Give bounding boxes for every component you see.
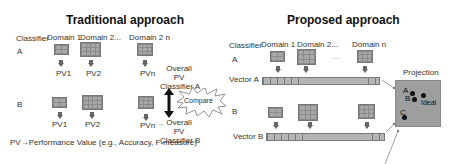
domain-1-header: Domain 1 [261,40,295,49]
classifier-b-label: B [232,107,237,116]
domain-2-data-grid [297,49,316,65]
footnote: PV→Performance Value (e.g., Accuracy, F-… [10,138,197,147]
down-arrow-icon [89,112,95,119]
domain-1-header: Domain 1 [47,33,81,42]
down-arrow-icon [273,122,279,129]
classifier-a-label: A [232,55,237,64]
vector-a-bar [262,77,380,85]
classifier-a-label: A [17,47,22,56]
domain-2-data-grid [82,95,103,110]
down-arrow-icon [275,66,281,73]
down-arrow-icon [362,66,368,73]
down-arrow-icon [303,66,309,73]
pv2-a: PV2 [86,69,101,78]
domain-n-data-grid [138,96,154,109]
classifier-header: Classifier [16,34,49,43]
vector-a-label: Vector A [229,75,259,84]
domain-1-data-grid [52,97,67,108]
point-a [410,91,415,96]
down-arrow-icon [307,122,313,129]
ellipsis: ...... [331,54,341,60]
vector-b-bar [266,133,385,141]
point-c [402,115,407,120]
down-arrow-icon [142,60,148,67]
domain-n-header: Domain n [352,40,386,49]
domain-n-data-grid [358,104,375,119]
vector-b-label: Vector B [233,132,263,141]
classifier-b-label: B [17,100,22,109]
domain-1-data-grid [268,107,283,118]
down-arrow-icon [58,60,64,67]
classifier-header: Classifier [229,41,262,50]
point-b [412,97,417,102]
domain-1-data-grid [54,44,69,55]
domain-1-data-grid [270,51,285,62]
domain-2-data-grid [80,42,101,57]
domain-n-data-grid [137,43,153,56]
down-arrow-icon [143,114,149,121]
double-arrow-icon [164,88,174,118]
pv1-b: PV1 [52,120,67,129]
pvn-b: PVn [140,121,155,130]
projection-title: Projection [403,68,439,77]
pv2-b: PV2 [85,120,100,129]
point-label-ideal: Ideal [421,99,436,106]
point-label-b: B [405,94,410,103]
domain-2-header: Domain 2... [297,40,338,49]
down-arrow-icon [364,122,370,129]
pvn-a: PVn [140,69,155,78]
domain-2-data-grid [298,104,318,121]
projection-plot: A B Ideal C [395,80,441,127]
domain-2-header: Domain 2... [80,33,121,42]
down-arrow-icon [88,60,94,67]
compare-label: Compare [184,97,213,104]
proposed-title: Proposed approach [287,13,400,27]
point-ideal [421,93,426,98]
domain-n-data-grid [357,50,373,63]
domain-n-header: Domain 2 n [129,33,170,42]
traditional-title: Traditional approach [66,13,184,27]
down-arrow-icon [57,112,63,119]
pv1-a: PV1 [56,69,71,78]
